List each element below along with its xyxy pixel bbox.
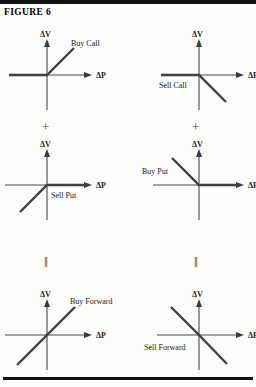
chart-buy-call: ΔV ΔP Buy Call [0, 28, 128, 128]
series-label: Buy Put [142, 167, 169, 176]
figure-caption-label: FIGURE 6 [4, 7, 51, 17]
y-axis-arrowhead [44, 39, 50, 47]
series-label: Sell Call [159, 81, 188, 90]
x-axis-arrowhead [84, 72, 92, 78]
y-axis-arrowhead [196, 149, 202, 157]
series-label: Sell Put [51, 191, 77, 200]
chart-sell-forward: ΔV ΔP Sell Forward [128, 288, 256, 387]
x-axis-label: ΔP [248, 331, 256, 340]
operator-equals-left: ‖ [44, 256, 47, 270]
page-top-rule [0, 0, 256, 4]
series-label: Buy Forward [70, 297, 112, 306]
operator-plus-right: + [192, 120, 199, 133]
x-axis-arrowhead [236, 72, 244, 78]
y-axis-arrowhead [196, 299, 202, 307]
y-axis-arrowhead [196, 39, 202, 47]
x-axis-label: ΔP [248, 71, 256, 80]
y-axis-arrowhead [44, 149, 50, 157]
chart-sell-call: ΔV ΔP Sell Call [128, 28, 256, 128]
chart-buy-forward: ΔV ΔP Buy Forward [0, 288, 128, 387]
x-axis-label: ΔP [248, 181, 256, 190]
x-axis-arrowhead [236, 332, 244, 338]
payoff-line [172, 158, 238, 185]
operator-plus-left: + [42, 120, 49, 133]
chart-sell-put: ΔV ΔP Sell Put [0, 138, 128, 238]
y-axis-arrowhead [44, 299, 50, 307]
operator-equals-right: ‖ [194, 256, 197, 270]
x-axis-arrowhead [84, 332, 92, 338]
payoff-line [9, 48, 74, 75]
chart-buy-put: ΔV ΔP Buy Put [128, 138, 256, 238]
figure-page: FIGURE 6 ΔV ΔP Buy Call ΔV ΔP Sell Call [0, 0, 256, 387]
payoff-line [17, 307, 75, 365]
y-axis-label: ΔV [40, 30, 51, 39]
series-label: Buy Call [71, 39, 100, 48]
y-axis-label: ΔV [40, 290, 51, 299]
series-label: Sell Forward [144, 343, 186, 352]
x-axis-label: ΔP [96, 71, 106, 80]
y-axis-label: ΔV [192, 30, 203, 39]
y-axis-label: ΔV [40, 140, 51, 149]
x-axis-label: ΔP [96, 331, 106, 340]
page-bottom-rule [3, 377, 253, 380]
y-axis-label: ΔV [192, 290, 203, 299]
x-axis-label: ΔP [96, 181, 106, 190]
y-axis-label: ΔV [192, 140, 203, 149]
